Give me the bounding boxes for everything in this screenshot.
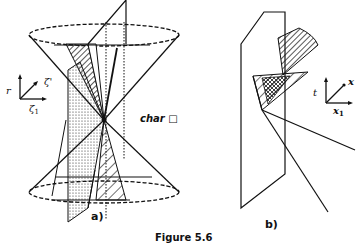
axis-label-x: x [348,76,354,87]
char-annotation: char □ [140,113,178,124]
figure-caption: Figure 5.6 [155,232,212,243]
axis-label-x1: x1 [333,105,344,118]
panel-label-a: a) [91,210,103,223]
axis-subscript: 1 [34,108,38,116]
char-text: char [140,113,165,124]
axis-label-r: r [6,85,11,96]
figure-canvas [0,0,359,244]
panel-label-b: b) [265,218,278,231]
axis-subscript: 1 [339,109,344,118]
axis-label-zeta-prime: ζ' [44,76,52,87]
axis-label-zeta1: ζ1 [29,103,39,116]
panel-a-diagram [18,0,179,222]
square-icon: □ [168,113,177,124]
axis-label-t: t [313,87,317,98]
